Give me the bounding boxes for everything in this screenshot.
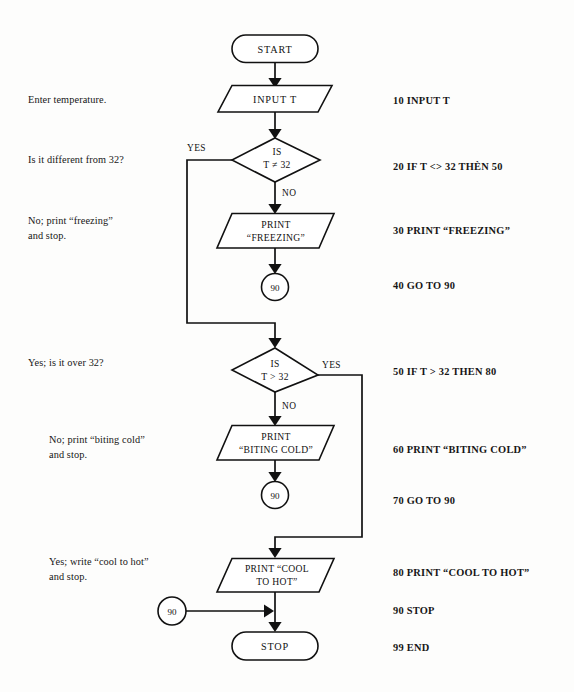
node-print-biting-cold[interactable]: PRINT “BITING COLD”: [217, 426, 334, 461]
code-line-70: 70 GO TO 90: [393, 494, 455, 508]
code-line-30: 30 PRINT “FREEZING”: [393, 224, 510, 238]
node-decision-t-ne-32[interactable]: IS T ≠ 32: [232, 138, 320, 182]
arrowhead-decision2-yes: [268, 548, 281, 558]
print-freezing-line1: PRINT: [261, 219, 290, 230]
print-freezing-line2: “FREEZING”: [247, 232, 305, 243]
branch-label-no-1: NO: [282, 188, 296, 198]
node-connector-90-b[interactable]: 90: [262, 482, 289, 509]
code-line-50: 50 IF T > 32 THEN 80: [393, 365, 497, 379]
code-line-60: 60 PRINT “BITING COLD”: [393, 443, 527, 457]
note-no-print-freezing: No; print “freezing” and stop.: [28, 214, 113, 243]
code-line-90: 90 STOP: [393, 604, 435, 618]
print-biting-cold-line1: PRINT: [261, 431, 290, 442]
code-line-20: 20 IF T <> 32 THÈN 50: [393, 160, 503, 174]
note-no-print-biting-cold: No; print “biting cold” and stop.: [49, 433, 145, 462]
note-yes-is-it-over-32: Yes; is it over 32?: [28, 356, 104, 371]
print-biting-cold-line2: “BITING COLD”: [239, 444, 313, 455]
code-line-10: 10 INPUT T: [393, 94, 450, 108]
decision-t-gt-32-line1: IS: [270, 358, 279, 369]
branch-label-yes-2: YES: [322, 360, 341, 370]
input-t-label: INPUT T: [253, 94, 297, 105]
connector-90-c-label: 90: [168, 607, 178, 617]
arrowhead-bitingcold-to-conn90b: [268, 472, 281, 482]
arrowhead-decision1-no: [268, 204, 281, 214]
stop-label: STOP: [261, 641, 289, 652]
code-line-40: 40 GO TO 90: [393, 279, 455, 293]
node-connector-90-a[interactable]: 90: [262, 274, 289, 301]
arrowhead-decision1-yes: [268, 338, 281, 348]
print-cool-to-hot-line1: PRINT “COOL: [245, 563, 309, 574]
arrowhead-decision2-no: [268, 416, 281, 426]
code-line-80: 80 PRINT “COOL TO HOT”: [393, 566, 530, 580]
node-print-cool-to-hot[interactable]: PRINT “COOL TO HOT”: [217, 559, 334, 593]
node-connector-90-c[interactable]: 90: [158, 597, 186, 625]
decision-t-ne-32-line1: IS: [272, 146, 281, 157]
start-label: START: [258, 44, 293, 55]
flowchart-page: START INPUT T IS T ≠ 32 PRINT “FREEZING”…: [0, 0, 574, 692]
note-yes-write-cool-to-hot: Yes; write “cool to hot” and stop.: [49, 555, 149, 584]
connector-90-b-label: 90: [271, 491, 281, 501]
note-enter-temperature: Enter temperature.: [28, 93, 106, 108]
node-print-freezing[interactable]: PRINT “FREEZING”: [217, 214, 334, 249]
arrowhead-coolhot-to-stop: [268, 622, 281, 632]
code-line-99: 99 END: [393, 641, 429, 655]
branch-label-no-2: NO: [282, 401, 296, 411]
note-is-it-different: Is it different from 32?: [28, 153, 124, 168]
decision-t-gt-32-line2: T > 32: [261, 371, 289, 382]
node-start[interactable]: START: [232, 35, 318, 63]
connector-decision1-yes: [187, 160, 275, 340]
connector-90-a-label: 90: [271, 283, 281, 293]
branch-label-yes-1: YES: [187, 143, 206, 153]
decision-t-ne-32-line2: T ≠ 32: [263, 159, 290, 170]
node-stop[interactable]: STOP: [232, 632, 318, 660]
arrowhead-freezing-to-conn90a: [268, 264, 281, 274]
node-decision-t-gt-32[interactable]: IS T > 32: [232, 348, 318, 392]
print-cool-to-hot-line2: TO HOT”: [256, 576, 297, 587]
node-input-t[interactable]: INPUT T: [218, 86, 332, 113]
decision-t-gt-32-diamond-shape: [232, 348, 318, 392]
arrowhead-conn90c-to-stop: [264, 604, 274, 617]
